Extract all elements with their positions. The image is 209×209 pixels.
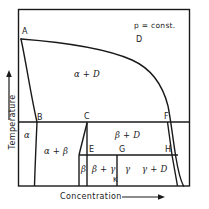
alpha-phase-boundary (35, 122, 38, 186)
alpha-solvus-curve (21, 39, 37, 122)
region-label-alpha-plus-d: α + D (74, 70, 100, 79)
x-axis-title: Concentration (60, 193, 122, 201)
point-label-b: B (37, 114, 43, 122)
point-label-g: G (119, 146, 125, 154)
point-label-e: E (89, 146, 94, 154)
region-label-gamma-plus-d: γ + D (142, 165, 167, 174)
point-label-d-top: D (136, 36, 142, 44)
point-label-f: F (164, 113, 169, 121)
region-label-beta: β (81, 165, 86, 174)
right-arrow-icon (122, 194, 165, 200)
phase-diagram-figure: p = const. A D B C F E G H K α + D α α +… (0, 0, 209, 209)
point-label-h: H (165, 146, 171, 154)
point-label-k: K (113, 177, 118, 184)
beta-solvus-line (79, 123, 87, 155)
phase-diagram-canvas (0, 0, 209, 209)
point-label-a: A (22, 28, 28, 36)
region-label-alpha-plus-beta: α + β (44, 147, 68, 156)
region-label-beta-plus-gamma: β + γ (92, 165, 116, 174)
region-label-gamma: γ (125, 165, 130, 174)
y-axis-title: Temperature (9, 83, 17, 161)
region-label-alpha: α (24, 131, 30, 140)
point-label-c: C (84, 113, 90, 121)
region-label-beta-plus-d: β + D (115, 131, 140, 140)
plot-frame (19, 10, 190, 187)
condition-label: p = const. (134, 22, 176, 30)
